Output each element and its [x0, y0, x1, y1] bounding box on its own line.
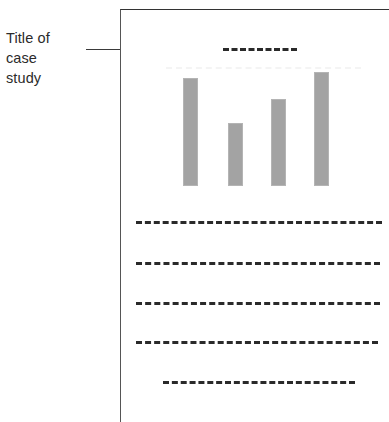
body-text-line — [136, 341, 378, 344]
chart-bar — [314, 72, 329, 186]
document-title-placeholder — [223, 48, 297, 51]
chart-caption-placeholder — [166, 67, 361, 69]
chart-bar — [183, 78, 198, 186]
annotation-label: Title of case study — [6, 28, 106, 88]
chart-bar — [228, 123, 243, 186]
body-text-line — [136, 262, 380, 265]
screenshot-canvas: Title of case study — [0, 0, 389, 422]
bar-chart — [173, 72, 373, 186]
document-page — [120, 9, 389, 422]
body-text-line — [136, 221, 382, 224]
body-text-line — [136, 302, 380, 305]
chart-bar — [271, 99, 286, 186]
body-text-line — [163, 381, 355, 384]
